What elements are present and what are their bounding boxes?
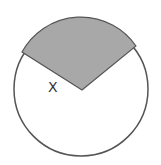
diagram-canvas: X [0,0,161,165]
angle-label-x: X [48,79,58,95]
